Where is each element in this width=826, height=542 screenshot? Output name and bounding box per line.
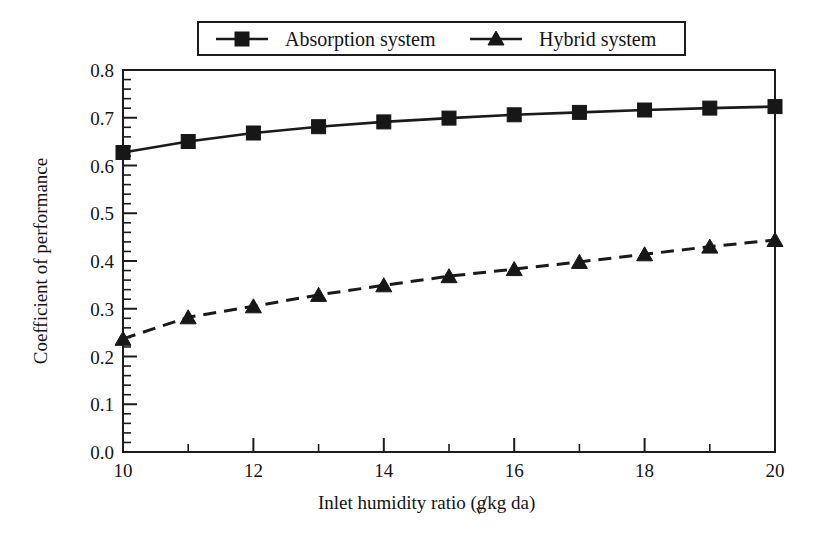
- plot-frame: [123, 70, 775, 452]
- data-point-marker: [638, 103, 652, 117]
- data-point-marker: [442, 111, 456, 125]
- y-axis-tick-labels: 0.0 0.1 0.2 0.3 0.4 0.5 0.6 0.7 0.8: [90, 60, 114, 463]
- x-axis: 10 12 14 16 18 20 Inlet humidity ratio (…: [114, 438, 785, 517]
- x-tick-label-0: 10: [114, 460, 133, 481]
- data-point-marker: [507, 108, 521, 122]
- data-point-marker: [768, 100, 782, 114]
- y-tick-label-4: 0.4: [90, 251, 114, 272]
- data-point-marker: [377, 115, 391, 129]
- x-tick-label-4: 18: [635, 460, 654, 481]
- y-axis: 0.0 0.1 0.2 0.3 0.4 0.5 0.6 0.7 0.8 Coef…: [30, 60, 137, 463]
- y-tick-label-3: 0.3: [90, 299, 114, 320]
- legend-label-absorption-system: Absorption system: [285, 28, 436, 51]
- y-tick-label-1: 0.1: [90, 394, 114, 415]
- legend-label-hybrid-system: Hybrid system: [539, 28, 657, 51]
- series-hybrid-system: [115, 233, 783, 346]
- legend-marker-square: [235, 32, 249, 46]
- chart-figure: Absorption system Hybrid system: [0, 0, 826, 542]
- y-tick-label-7: 0.7: [90, 108, 114, 129]
- series-line-hybrid-system: [123, 240, 775, 339]
- y-axis-title: Coefficient of performance: [30, 158, 51, 364]
- x-axis-title-tail: /kg da): [482, 492, 535, 514]
- series-absorption-system: [116, 100, 782, 160]
- x-axis-title-main: Inlet humidity ratio (g: [318, 492, 487, 514]
- y-tick-label-0: 0.0: [90, 442, 114, 463]
- data-point-marker: [572, 105, 586, 119]
- y-tick-label-8: 0.8: [90, 60, 114, 81]
- x-axis-minor-ticks: [188, 444, 710, 452]
- chart-legend: Absorption system Hybrid system: [198, 22, 685, 55]
- x-axis-tick-labels: 10 12 14 16 18 20: [114, 460, 785, 481]
- x-tick-label-3: 16: [505, 460, 524, 481]
- data-point-marker: [312, 120, 326, 134]
- y-tick-label-2: 0.2: [90, 347, 114, 368]
- data-point-marker: [116, 146, 130, 160]
- y-tick-label-6: 0.6: [90, 156, 114, 177]
- coefficient-of-performance-line-chart: Absorption system Hybrid system: [0, 0, 826, 542]
- data-point-marker: [246, 126, 260, 140]
- data-point-marker: [703, 101, 717, 115]
- y-tick-label-5: 0.5: [90, 203, 114, 224]
- x-tick-label-1: 12: [244, 460, 263, 481]
- data-point-marker: [181, 135, 195, 149]
- x-tick-label-2: 14: [374, 460, 394, 481]
- x-axis-title: Inlet humidity ratio (g v /kg da): [318, 492, 535, 517]
- x-tick-label-5: 20: [766, 460, 785, 481]
